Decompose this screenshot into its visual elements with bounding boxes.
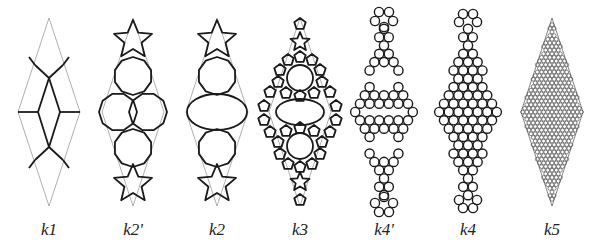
panel-k5 — [521, 18, 584, 206]
panel-k3 — [258, 18, 341, 206]
panel-k2 — [186, 18, 248, 206]
panel-k2-prime — [99, 18, 167, 206]
label-k4-prime: k4' — [354, 220, 414, 240]
label-k3: k3 — [270, 220, 330, 240]
label-k2: k2 — [187, 220, 247, 240]
label-k4: k4 — [438, 220, 498, 240]
panel-k4 — [435, 9, 502, 212]
panel-k4-prime — [351, 7, 418, 216]
label-k1: k1 — [19, 220, 79, 240]
label-k5: k5 — [522, 220, 582, 240]
tiling-figure — [0, 0, 600, 250]
label-k2-prime: k2' — [103, 220, 163, 240]
panel-k1 — [18, 18, 80, 206]
